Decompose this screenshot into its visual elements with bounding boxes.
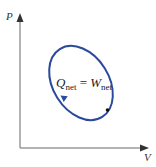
equals-sign: = [80, 75, 87, 90]
heat-symbol: Q [56, 75, 65, 90]
volume-axis-label: V [144, 151, 151, 163]
state-point-marker [106, 108, 110, 112]
pressure-axis-label: P [6, 10, 13, 22]
pv-diagram: P V Qnet = Wnet [0, 0, 156, 167]
cycle-direction-arrow-icon [61, 94, 69, 102]
work-symbol: W [90, 75, 101, 90]
net-heat-work-equation: Qnet = Wnet [56, 75, 112, 92]
heat-subscript: net [65, 82, 76, 92]
pressure-axis-arrow-icon [17, 13, 24, 22]
work-subscript: net [101, 82, 112, 92]
